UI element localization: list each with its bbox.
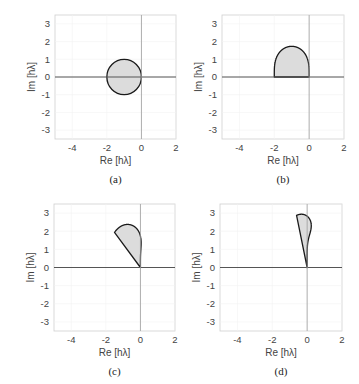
y-tick-label: -2 bbox=[209, 107, 217, 118]
x-tick-label: -4 bbox=[235, 142, 243, 153]
subplot-caption: (c) bbox=[108, 365, 121, 378]
y-tick-label: 3 bbox=[212, 18, 217, 29]
y-tick-label: 0 bbox=[45, 71, 50, 82]
y-tick-label: 1 bbox=[210, 244, 215, 255]
y-axis-label: Im [hλ] bbox=[191, 252, 202, 282]
y-tick-label: 1 bbox=[212, 54, 217, 65]
y-tick-label: -3 bbox=[41, 316, 49, 327]
x-tick-label: -2 bbox=[103, 142, 111, 153]
y-tick-label: 3 bbox=[44, 207, 49, 218]
y-tick-label: 0 bbox=[44, 262, 49, 273]
y-tick-label: 3 bbox=[45, 18, 50, 29]
x-tick-label: 0 bbox=[138, 334, 143, 345]
subplot-c: -4-2023210-1-2-3Re [hλ]Im [hλ](c) bbox=[25, 204, 178, 378]
x-axis-label: Re [hλ] bbox=[99, 347, 131, 358]
y-tick-label: 1 bbox=[45, 54, 50, 65]
subplot-caption: (b) bbox=[277, 173, 290, 186]
y-axis-label: Im [hλ] bbox=[25, 252, 36, 282]
x-tick-label: -4 bbox=[233, 334, 241, 345]
y-tick-label: -3 bbox=[42, 124, 50, 135]
y-tick-label: -1 bbox=[42, 89, 50, 100]
y-tick-label: 1 bbox=[44, 244, 49, 255]
subplot-caption: (d) bbox=[275, 365, 288, 378]
y-axis-label: Im [hλ] bbox=[26, 62, 37, 92]
x-tick-label: 0 bbox=[304, 334, 309, 345]
y-tick-label: 2 bbox=[212, 36, 217, 47]
y-axis-label: Im [hλ] bbox=[193, 62, 204, 92]
y-tick-label: 2 bbox=[210, 226, 215, 237]
y-tick-label: 2 bbox=[45, 36, 50, 47]
x-axis-label: Re [hλ] bbox=[265, 347, 297, 358]
y-tick-label: 2 bbox=[44, 226, 49, 237]
y-tick-label: -2 bbox=[42, 107, 50, 118]
x-tick-label: 0 bbox=[139, 142, 144, 153]
subplot-caption: (a) bbox=[109, 173, 122, 186]
y-tick-label: -1 bbox=[209, 89, 217, 100]
x-tick-label: -2 bbox=[270, 142, 278, 153]
x-tick-label: 2 bbox=[341, 142, 346, 153]
stability-region-figure: -4-2023210-1-2-3Re [hλ]Im [hλ](a)-4-2023… bbox=[0, 0, 359, 384]
x-tick-label: -4 bbox=[67, 334, 75, 345]
x-tick-label: 2 bbox=[339, 334, 344, 345]
x-axis-label: Re [hλ] bbox=[100, 155, 132, 166]
y-tick-label: -1 bbox=[41, 280, 49, 291]
y-tick-label: -2 bbox=[41, 298, 49, 309]
y-tick-label: 0 bbox=[212, 71, 217, 82]
x-axis-label: Re [hλ] bbox=[267, 155, 299, 166]
x-tick-label: -2 bbox=[268, 334, 276, 345]
y-tick-label: -1 bbox=[207, 280, 215, 291]
y-tick-label: -3 bbox=[207, 316, 215, 327]
y-tick-label: -3 bbox=[209, 124, 217, 135]
subplot-b: -4-2023210-1-2-3Re [hλ]Im [hλ](b) bbox=[193, 15, 347, 186]
x-tick-label: -4 bbox=[68, 142, 76, 153]
y-tick-label: -2 bbox=[207, 298, 215, 309]
x-tick-label: 0 bbox=[306, 142, 311, 153]
x-tick-label: 2 bbox=[173, 142, 178, 153]
subplot-d: -4-2023210-1-2-3Re [hλ]Im [hλ](d) bbox=[191, 204, 345, 378]
x-tick-label: -2 bbox=[102, 334, 110, 345]
y-tick-label: 3 bbox=[210, 207, 215, 218]
x-tick-label: 2 bbox=[172, 334, 177, 345]
subplot-a: -4-2023210-1-2-3Re [hλ]Im [hλ](a) bbox=[26, 15, 179, 186]
y-tick-label: 0 bbox=[210, 262, 215, 273]
